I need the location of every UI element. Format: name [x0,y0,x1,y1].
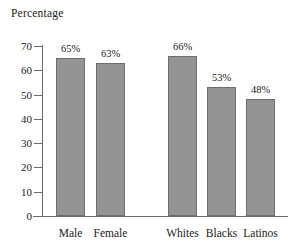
y-axis-tick [34,46,42,47]
bar-value-label: 66% [160,42,205,53]
y-axis-tick-label: 70 [6,41,32,52]
bar-blacks[interactable] [207,87,236,216]
y-axis-tick [34,119,42,120]
bar-chart: Percentage 706050403020100 65%63%66%53%4… [0,0,293,247]
y-axis-tick-label: 50 [6,90,32,101]
y-axis-tick-label: 20 [6,162,32,173]
y-axis-tick [34,167,42,168]
y-axis-tick [34,216,42,217]
y-axis-tick [34,143,42,144]
y-axis-tick [34,70,42,71]
x-axis-label-female: Female [82,228,139,240]
y-axis-tick-label: 0 [6,211,32,222]
x-axis-label-latinos: Latinos [232,228,289,240]
bar-value-label: 53% [199,73,244,84]
y-axis-tick-label: 60 [6,65,32,76]
y-axis-tick-label: 30 [6,138,32,149]
bar-male[interactable] [56,58,85,216]
bar-value-label: 63% [88,49,133,60]
bar-latinos[interactable] [246,99,275,216]
bar-whites[interactable] [168,56,197,216]
y-axis-tick-label: 10 [6,187,32,198]
y-axis-tick-label: 40 [6,114,32,125]
bar-value-label: 65% [48,44,93,55]
y-axis-title: Percentage [11,7,63,19]
bar-value-label: 48% [238,85,283,96]
bar-female[interactable] [96,63,125,216]
x-axis-line [33,216,288,217]
y-axis-tick [34,95,42,96]
y-axis-tick [34,192,42,193]
